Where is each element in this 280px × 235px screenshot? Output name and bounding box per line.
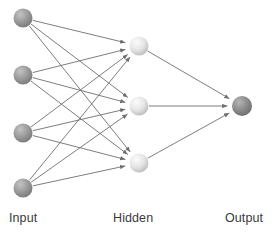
edge-i4-h2: [31, 114, 127, 182]
edge-i1-h1: [33, 20, 126, 42]
layer-labels-group: Input Hidden Output: [9, 211, 264, 225]
node-hidden-1: [130, 37, 149, 56]
node-hidden-2: [130, 97, 149, 116]
layer-label-input: Input: [9, 211, 38, 225]
edge-i1-h3: [29, 26, 130, 152]
node-input-1: [14, 9, 33, 28]
node-input-3: [14, 124, 33, 143]
node-input-2: [14, 66, 33, 85]
edge-i4-h3: [33, 166, 125, 186]
network-canvas: Input Hidden Output: [0, 0, 280, 235]
edge-i2-h2: [33, 78, 126, 103]
edges-group: [29, 20, 229, 186]
node-output-1: [232, 96, 252, 116]
edge-i3-h1: [31, 54, 128, 127]
layer-label-hidden: Hidden: [113, 211, 153, 225]
edge-h3-o1: [148, 113, 229, 158]
edge-i2-h3: [31, 81, 128, 154]
node-hidden-3: [130, 154, 149, 173]
layer-label-output: Output: [225, 211, 264, 225]
edge-i3-h3: [33, 136, 126, 160]
neural-network-diagram: Input Hidden Output: [0, 0, 280, 235]
edge-h1-o1: [148, 51, 230, 99]
edge-i2-h1: [33, 49, 126, 72]
edge-i4-h1: [29, 57, 130, 180]
node-input-4: [14, 179, 33, 198]
